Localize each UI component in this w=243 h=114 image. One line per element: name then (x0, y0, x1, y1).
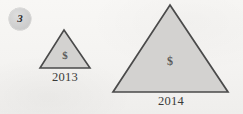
large-triangle-year-label: 2014 (158, 95, 184, 108)
large-triangle-shape (0, 0, 243, 114)
large-triangle-group: $ 2014 (0, 0, 243, 114)
figure-canvas: 3 $ 2013 $ 2014 (0, 0, 243, 114)
large-triangle-dollar-symbol: $ (167, 55, 173, 67)
